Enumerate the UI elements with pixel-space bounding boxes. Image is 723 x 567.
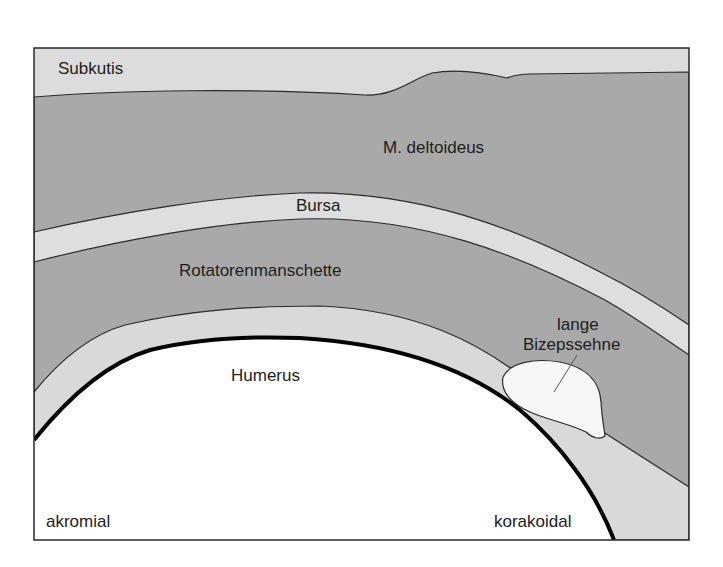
label-deltoid: M. deltoideus	[383, 139, 484, 156]
label-humerus: Humerus	[231, 367, 300, 384]
label-biceps-line2: Bizepssehne	[523, 336, 620, 353]
label-bursa: Bursa	[296, 197, 340, 214]
label-subkutis: Subkutis	[58, 60, 123, 77]
label-rotator-cuff: Rotatorenmanschette	[179, 262, 342, 279]
label-coracoid: korakoidal	[494, 513, 572, 530]
label-acromial: akromial	[46, 513, 110, 530]
label-biceps-line1: lange	[557, 316, 599, 333]
shoulder-cross-section-diagram	[0, 0, 723, 567]
